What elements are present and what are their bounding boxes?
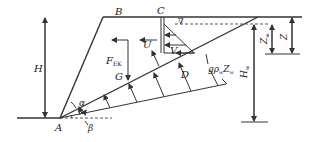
alpha-arc <box>71 102 76 108</box>
U-force-arrow <box>152 51 159 66</box>
U-label: U <box>143 39 152 50</box>
pressure-label: gρwZw <box>208 64 235 75</box>
FEK-label: FEK <box>105 55 122 67</box>
svg-text:Zw: Zw <box>259 33 270 45</box>
H-label: H <box>33 63 43 74</box>
V-label: V <box>170 45 179 56</box>
pressure-leader <box>222 79 227 84</box>
water-table-symbol: ∇ <box>178 17 184 26</box>
point-B-label: B <box>114 6 122 17</box>
crack-water-pressure-triangle <box>164 24 194 53</box>
point-C-label: C <box>157 5 165 16</box>
slope-stability-diagram: ∇ B C A H FEK U V G D gρwZw α β Hw Zw Z <box>0 0 313 142</box>
alpha-label: α <box>79 98 85 108</box>
svg-text:Hw: Hw <box>239 65 250 79</box>
Zw-label: Zw <box>259 33 270 45</box>
G-label: G <box>115 71 123 82</box>
Z-label: Z <box>279 33 289 41</box>
point-A-label: A <box>54 122 62 133</box>
crack-pressure-arrows <box>165 35 186 45</box>
Hw-label: Hw <box>239 65 250 79</box>
D-label: D <box>180 69 189 80</box>
uplift-pressure-arrows <box>79 63 218 114</box>
svg-text:Z: Z <box>279 33 289 41</box>
pressure-label-leader <box>206 54 208 64</box>
beta-label: β <box>87 123 93 133</box>
